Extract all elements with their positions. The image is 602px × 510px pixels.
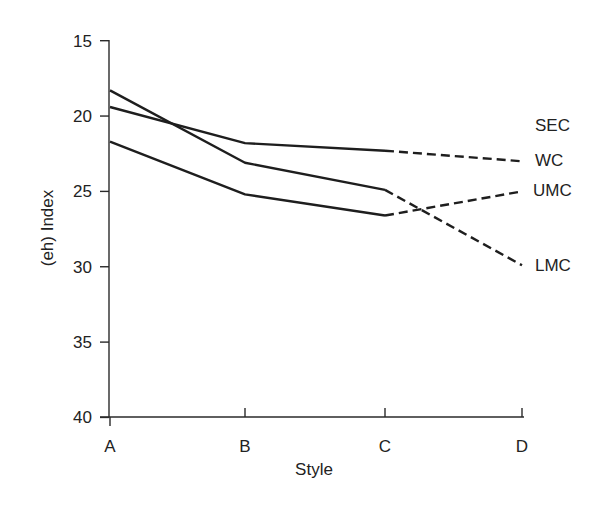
x-tick-label: B xyxy=(239,437,250,456)
y-tick-label: 25 xyxy=(73,182,92,201)
series-line-umc xyxy=(110,142,385,216)
series-label-lmc: LMC xyxy=(535,256,571,275)
series-line-lmc xyxy=(110,90,385,189)
y-tick-label: 40 xyxy=(73,408,92,427)
series-projection-umc xyxy=(385,191,522,215)
x-tick-label: A xyxy=(104,437,116,456)
y-tick-label: 30 xyxy=(73,258,92,277)
series-label-sec: SEC xyxy=(535,116,570,135)
series-lines xyxy=(110,90,522,265)
line-chart: 152025303540 ABCD Style (eh) Index SEC W… xyxy=(0,0,602,510)
x-tick-label: D xyxy=(516,437,528,456)
x-axis-title: Style xyxy=(295,460,333,479)
y-tick-label: 15 xyxy=(73,32,92,51)
series-projection-lmc xyxy=(385,190,522,265)
x-axis-ticks: ABCD xyxy=(104,408,528,456)
y-tick-label: 20 xyxy=(73,107,92,126)
y-axis-ticks: 152025303540 xyxy=(73,32,109,428)
series-label-umc: UMC xyxy=(533,181,572,200)
series-label-wc: WC xyxy=(535,151,563,170)
x-tick-label: C xyxy=(379,437,391,456)
series-projection-wc xyxy=(385,151,522,162)
y-tick-label: 35 xyxy=(73,333,92,352)
y-axis-title: (eh) Index xyxy=(38,189,57,266)
